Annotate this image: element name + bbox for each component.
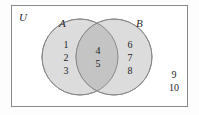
- element-value: 5: [96, 57, 101, 70]
- element-value: 1: [64, 38, 69, 51]
- element-value: 6: [128, 38, 133, 51]
- set-b-label: B: [136, 18, 143, 29]
- region-outside-elements: 9 10: [160, 68, 188, 94]
- element-value: 4: [96, 44, 101, 57]
- region-a-only-elements: 1 2 3: [54, 38, 78, 77]
- element-value: 7: [128, 51, 133, 64]
- region-intersection-elements: 4 5: [86, 44, 110, 70]
- set-a-label: A: [59, 18, 66, 29]
- universal-set-label: U: [19, 12, 27, 23]
- element-value: 2: [64, 51, 69, 64]
- region-b-only-elements: 6 7 8: [118, 38, 142, 77]
- element-value: 3: [64, 64, 69, 77]
- element-value: 8: [128, 64, 133, 77]
- venn-diagram-figure: U A B 1 2 3 4 5 6 7 8 9 10: [0, 0, 199, 115]
- element-value: 9: [172, 68, 177, 81]
- element-value: 10: [169, 81, 179, 94]
